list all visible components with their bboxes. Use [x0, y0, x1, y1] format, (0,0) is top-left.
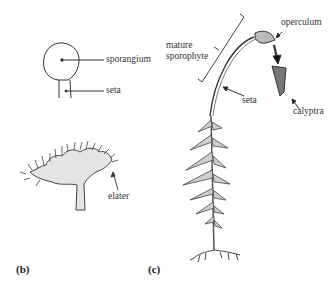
sporangium-drawing [44, 43, 104, 98]
label-mature-sporophyte-line1: mature [166, 41, 192, 51]
label-mature-sporophyte-line2: sporophyte [166, 52, 208, 62]
label-sporangium: sporangium [106, 55, 151, 65]
label-elater: elater [108, 192, 129, 202]
elater-drawing [20, 141, 118, 210]
label-calyptra: calyptra [293, 107, 324, 117]
label-seta-c: seta [242, 96, 257, 106]
label-operculum: operculum [281, 18, 322, 28]
label-seta-b: seta [106, 86, 121, 96]
panel-label-b: (b) [16, 263, 29, 275]
panel-label-c: (c) [148, 263, 160, 275]
